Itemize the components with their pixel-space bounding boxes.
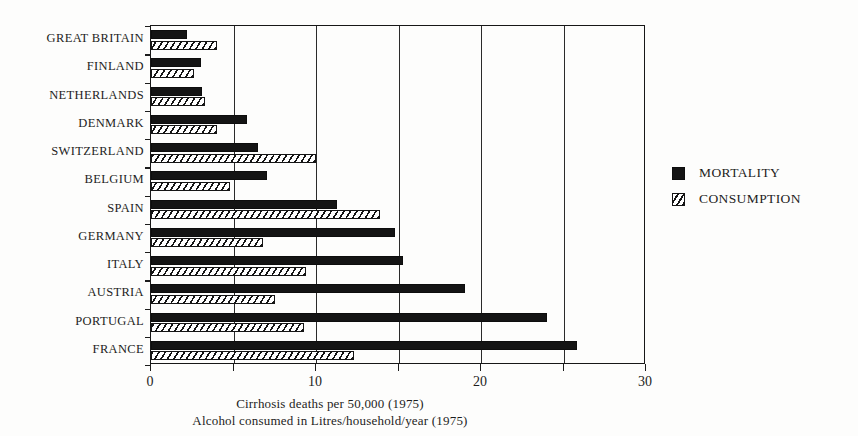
bar-consumption-germany xyxy=(151,238,263,247)
x-tick-15 xyxy=(398,364,399,371)
bar-row xyxy=(151,167,644,195)
y-tick xyxy=(145,167,151,168)
y-tick xyxy=(145,280,151,281)
y-tick xyxy=(145,139,151,140)
y-tick xyxy=(145,309,151,310)
y-tick xyxy=(145,337,151,338)
x-tick-label-30: 30 xyxy=(615,374,675,390)
y-tick xyxy=(145,54,151,55)
category-label-switzerland: SWITZERLAND xyxy=(0,144,144,159)
bar-row xyxy=(151,252,644,280)
bar-row xyxy=(151,280,644,308)
bar-mortality-france xyxy=(151,341,577,350)
bar-mortality-italy xyxy=(151,256,403,265)
bar-consumption-portugal xyxy=(151,323,304,332)
legend-item-mortality: MORTALITY xyxy=(672,160,801,186)
x-tick-label-20: 20 xyxy=(450,374,510,390)
y-tick xyxy=(145,111,151,112)
legend: MORTALITY CONSUMPTION xyxy=(672,160,801,212)
y-tick xyxy=(145,83,151,84)
plot-area xyxy=(150,25,645,364)
bar-consumption-great-britain xyxy=(151,41,217,50)
legend-label-consumption: CONSUMPTION xyxy=(699,191,801,207)
y-tick xyxy=(145,26,151,27)
bar-row xyxy=(151,309,644,337)
y-tick xyxy=(145,252,151,253)
legend-label-mortality: MORTALITY xyxy=(699,165,780,181)
bar-consumption-italy xyxy=(151,267,306,276)
bar-consumption-switzerland xyxy=(151,154,316,163)
bar-consumption-netherlands xyxy=(151,97,205,106)
x-tick-25 xyxy=(563,364,564,371)
bar-row xyxy=(151,26,644,54)
bar-row xyxy=(151,139,644,167)
bar-row xyxy=(151,54,644,82)
legend-swatch-consumption-icon xyxy=(672,193,685,206)
category-label-italy: ITALY xyxy=(0,257,144,272)
bar-row xyxy=(151,196,644,224)
bar-row xyxy=(151,83,644,111)
bar-mortality-finland xyxy=(151,58,201,67)
x-tick-10 xyxy=(315,364,316,371)
y-tick xyxy=(145,224,151,225)
bar-mortality-belgium xyxy=(151,171,267,180)
x-axis-caption-primary: Cirrhosis deaths per 50,000 (1975) xyxy=(0,396,660,412)
category-label-austria: AUSTRIA xyxy=(0,285,144,300)
bar-row xyxy=(151,224,644,252)
legend-item-consumption: CONSUMPTION xyxy=(672,186,801,212)
category-label-portugal: PORTUGAL xyxy=(0,314,144,329)
bar-row xyxy=(151,111,644,139)
x-tick-5 xyxy=(233,364,234,371)
x-tick-0 xyxy=(150,364,151,371)
category-label-denmark: DENMARK xyxy=(0,116,144,131)
bar-mortality-austria xyxy=(151,284,465,293)
bar-mortality-netherlands xyxy=(151,87,202,96)
category-label-spain: SPAIN xyxy=(0,201,144,216)
category-label-netherlands: NETHERLANDS xyxy=(0,88,144,103)
category-label-germany: GERMANY xyxy=(0,229,144,244)
bar-consumption-spain xyxy=(151,210,380,219)
bar-consumption-austria xyxy=(151,295,275,304)
bar-mortality-germany xyxy=(151,228,395,237)
x-axis-caption-secondary: Alcohol consumed in Litres/household/yea… xyxy=(0,413,660,429)
x-tick-30 xyxy=(645,364,646,371)
bar-mortality-spain xyxy=(151,200,337,209)
category-label-finland: FINLAND xyxy=(0,59,144,74)
legend-swatch-mortality-icon xyxy=(672,167,685,180)
bar-mortality-great-britain xyxy=(151,30,187,39)
category-label-france: FRANCE xyxy=(0,342,144,357)
category-label-great-britain: GREAT BRITAIN xyxy=(0,31,144,46)
y-tick xyxy=(145,196,151,197)
bar-consumption-france xyxy=(151,351,354,360)
x-tick-label-10: 10 xyxy=(285,374,345,390)
category-label-belgium: BELGIUM xyxy=(0,172,144,187)
bar-rows xyxy=(151,26,644,363)
bar-consumption-denmark xyxy=(151,125,217,134)
x-tick-20 xyxy=(480,364,481,371)
bar-consumption-belgium xyxy=(151,182,230,191)
chart-page: 0102030 Cirrhosis deaths per 50,000 (197… xyxy=(0,0,858,436)
bar-mortality-portugal xyxy=(151,313,547,322)
bar-consumption-finland xyxy=(151,69,194,78)
bar-row xyxy=(151,337,644,365)
bar-mortality-switzerland xyxy=(151,143,258,152)
x-tick-label-0: 0 xyxy=(120,374,180,390)
bar-mortality-denmark xyxy=(151,115,247,124)
